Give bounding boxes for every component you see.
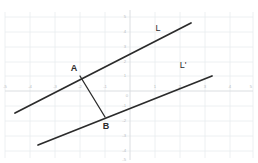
- geometry-figure-canvas: -5 -4 -3 -2 -1 0 1 2 3 4 5 5 4 3 2 1 -1 …: [0, 0, 258, 163]
- y-tick-label: 5: [124, 14, 127, 19]
- x-tick-label: -3: [53, 84, 57, 89]
- grid-lines-horizontal: [5, 17, 253, 151]
- x-tick-label-origin: 0: [126, 93, 129, 98]
- line-label-L-prime: L': [180, 60, 187, 70]
- segment-AB: [80, 76, 105, 117]
- y-tick-label: -2: [122, 118, 126, 123]
- x-tick-label: -1: [103, 84, 107, 89]
- y-tick-label: 4: [124, 29, 127, 34]
- point-label-A: A: [71, 63, 78, 73]
- y-axis-tick-labels: 5 4 3 2 1 -1 -2 -3 -4 -5: [122, 14, 126, 162]
- y-tick-label: -4: [122, 148, 126, 153]
- coordinate-plane-svg: -5 -4 -3 -2 -1 0 1 2 3 4 5 5 4 3 2 1 -1 …: [0, 0, 258, 163]
- point-label-B: B: [103, 121, 110, 131]
- x-tick-label: 1: [154, 84, 157, 89]
- x-tick-label: -5: [3, 84, 7, 89]
- y-tick-label: 1: [124, 73, 127, 78]
- x-tick-label: -2: [78, 84, 82, 89]
- y-tick-label: -3: [122, 133, 126, 138]
- line-label-L: L: [155, 23, 160, 33]
- line-L: [15, 23, 191, 113]
- x-tick-label: 3: [204, 84, 207, 89]
- y-tick-label: -5: [122, 157, 126, 162]
- y-tick-label: 3: [124, 44, 127, 49]
- x-tick-label: 5: [250, 84, 253, 89]
- x-tick-label: -4: [28, 84, 32, 89]
- x-tick-label: 4: [229, 84, 232, 89]
- y-tick-label: -1: [122, 103, 126, 108]
- y-tick-label: 2: [124, 59, 127, 64]
